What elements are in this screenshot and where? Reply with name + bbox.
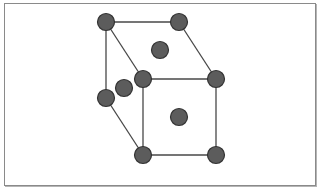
atom-front-face-center	[171, 109, 188, 126]
atom-front-top-right	[208, 71, 225, 88]
atom-back-top-left	[98, 14, 115, 31]
atom-left-face-center	[116, 80, 133, 97]
atom-back-bottom-left	[98, 90, 115, 107]
edge-back-top-right-to-front-top-right	[179, 22, 216, 79]
atom-front-bottom-right	[208, 147, 225, 164]
atom-back-top-right	[171, 14, 188, 31]
lattice-atoms	[98, 14, 225, 164]
atom-top-face-center	[152, 42, 169, 59]
edge-back-top-left-to-front-top-left	[106, 22, 143, 79]
atom-front-bottom-left	[135, 147, 152, 164]
atom-front-top-left	[135, 71, 152, 88]
edge-back-bottom-left-to-front-bottom-left	[106, 98, 143, 155]
fcc-unit-cell-diagram	[0, 0, 318, 192]
